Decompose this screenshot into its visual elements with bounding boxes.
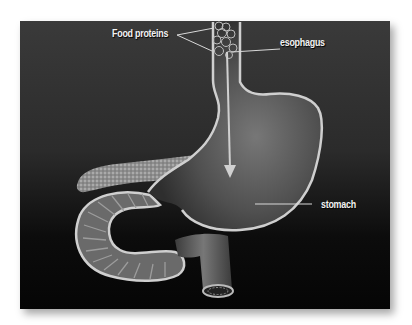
duodenum (76, 192, 184, 280)
label-stomach: stomach (321, 198, 356, 210)
stomach (148, 22, 322, 230)
label-esophagus: esophagus (280, 36, 325, 48)
stomach-illustration (0, 0, 412, 325)
label-food-proteins: Food proteins (112, 27, 168, 39)
